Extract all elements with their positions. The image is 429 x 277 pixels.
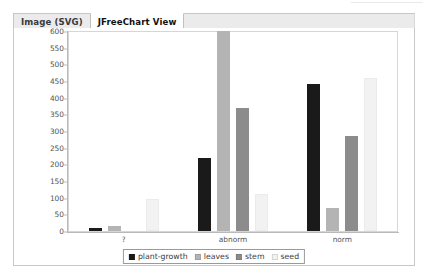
legend-swatch-icon	[236, 254, 242, 260]
y-axis-tick-350: 350	[18, 112, 64, 119]
y-axis-tick-600: 600	[18, 28, 64, 35]
x-axis-label-?: ?	[122, 235, 126, 244]
y-axis-tick-100: 100	[18, 195, 64, 202]
y-axis-tick-550: 550	[18, 45, 64, 52]
tab-jfreechart-view-label: JFreeChart View	[98, 17, 177, 27]
tab-bar: Image (SVG) JFreeChart View	[13, 13, 415, 29]
chart-legend: plant-growthleavesstemseed	[123, 249, 305, 264]
legend-item-leaves[interactable]: leaves	[195, 252, 229, 261]
bar-leaves-norm[interactable]	[326, 208, 339, 231]
application-window: Image (SVG) JFreeChart View 050100150200…	[0, 0, 429, 277]
y-axis-tick-450: 450	[18, 78, 64, 85]
top-edge-artifact	[351, 2, 423, 3]
legend-item-stem[interactable]: stem	[236, 252, 265, 261]
tab-content-panel: 050100150200250300350400450500550600 ?ab…	[13, 28, 415, 266]
bar-plant-growth-norm[interactable]	[307, 84, 320, 231]
bar-group	[178, 32, 287, 231]
y-axis-tick-labels: 050100150200250300350400450500550600	[14, 28, 64, 264]
y-axis-tick-300: 300	[18, 128, 64, 135]
x-axis-line	[67, 232, 399, 233]
bar-group	[69, 32, 178, 231]
tab-jfreechart-view[interactable]: JFreeChart View	[91, 13, 185, 29]
bar-plant-growth-abnorm[interactable]	[198, 158, 211, 231]
bar-leaves-?[interactable]	[108, 226, 121, 231]
y-axis-tick-400: 400	[18, 95, 64, 102]
x-axis-category-labels: ?abnormnorm	[69, 235, 397, 249]
plot-area	[69, 32, 397, 231]
tab-image-svg-label: Image (SVG)	[21, 17, 83, 27]
bar-leaves-abnorm[interactable]	[217, 31, 230, 231]
legend-item-seed[interactable]: seed	[271, 252, 299, 261]
bar-seed-abnorm[interactable]	[255, 194, 268, 231]
bar-seed-?[interactable]	[146, 199, 159, 231]
y-axis-tick-200: 200	[18, 162, 64, 169]
y-axis-tick-50: 50	[18, 212, 64, 219]
bar-chart: 050100150200250300350400450500550600 ?ab…	[14, 28, 414, 264]
legend-label: plant-growth	[138, 252, 188, 261]
x-axis-label-norm: norm	[333, 235, 352, 244]
y-axis-tick-150: 150	[18, 178, 64, 185]
legend-swatch-icon	[271, 254, 277, 260]
legend-swatch-icon	[129, 254, 135, 260]
y-axis-tick-250: 250	[18, 145, 64, 152]
bar-group	[288, 32, 397, 231]
bar-plant-growth-?[interactable]	[89, 228, 102, 231]
bar-stem-norm[interactable]	[345, 136, 358, 231]
tab-bar-filler	[184, 14, 414, 29]
legend-label: stem	[245, 252, 265, 261]
legend-item-plant-growth[interactable]: plant-growth	[129, 252, 188, 261]
bar-seed-norm[interactable]	[364, 78, 377, 231]
legend-label: leaves	[204, 252, 229, 261]
legend-swatch-icon	[195, 254, 201, 260]
y-axis-tick-0: 0	[18, 228, 64, 235]
x-axis-label-abnorm: abnorm	[219, 235, 248, 244]
bar-stem-abnorm[interactable]	[236, 108, 249, 231]
y-axis-tick-500: 500	[18, 62, 64, 69]
legend-label: seed	[280, 252, 299, 261]
